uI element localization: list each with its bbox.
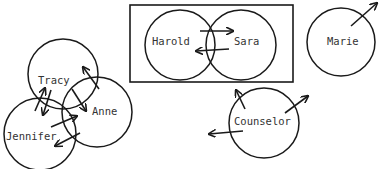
arrow-sara-to-harold <box>196 49 229 51</box>
relationship-arrows <box>35 3 377 146</box>
node-label-sara: Sara <box>234 35 259 47</box>
arrow-marie-to-out <box>351 3 377 26</box>
arrow-jennifer-to-tracy <box>35 88 45 111</box>
arrow-anne-to-tracy <box>83 67 99 89</box>
node-label-marie: Marie <box>327 35 359 47</box>
sociogram-canvas: TracyAnneJenniferHaroldSaraMarieCounselo… <box>0 0 379 169</box>
arrow-counselor-to-left <box>209 131 243 134</box>
node-label-anne: Anne <box>92 105 117 117</box>
node-labels: TracyAnneJenniferHaroldSaraMarieCounselo… <box>6 35 359 142</box>
node-label-jennifer: Jennifer <box>6 130 57 142</box>
node-label-tracy: Tracy <box>38 74 70 86</box>
node-label-counselor: Counselor <box>234 115 291 127</box>
node-circles <box>4 8 375 169</box>
node-label-harold: Harold <box>152 35 190 47</box>
arrow-tracy-to-jennifer <box>43 90 51 115</box>
